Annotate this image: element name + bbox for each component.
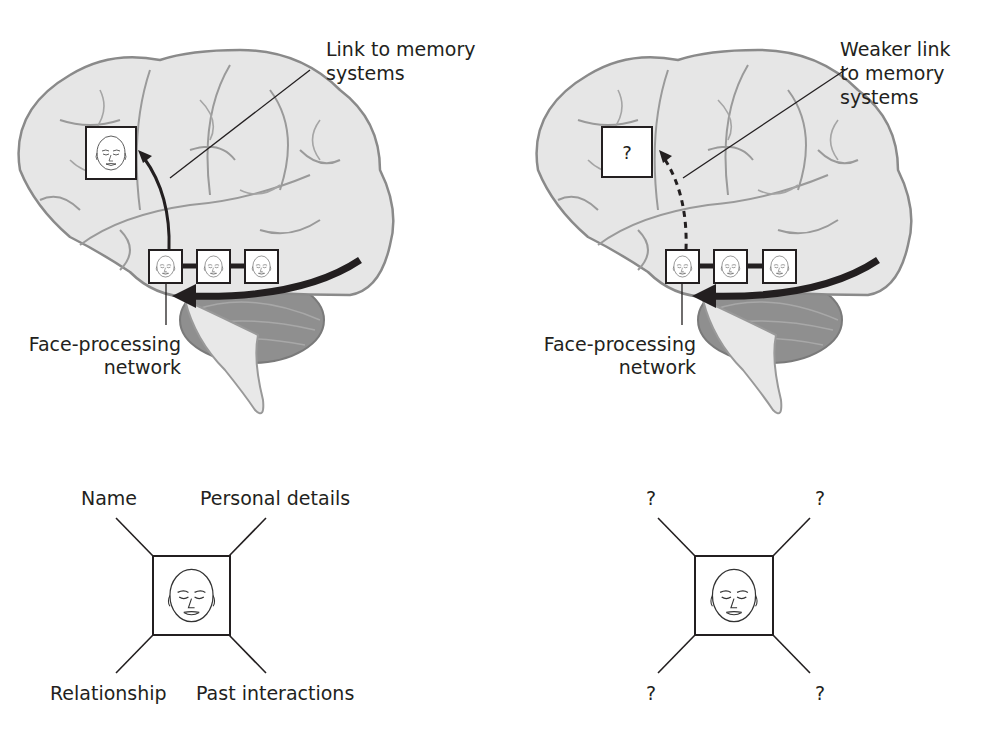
left-network-label-line2: network [25, 356, 181, 379]
left-network-face-2 [196, 249, 231, 284]
right-link-label-line3: systems [840, 86, 919, 109]
face-icon [715, 251, 746, 282]
left-network-face-1 [148, 249, 183, 284]
right-map-unknown-bottom-left: ? [646, 682, 656, 705]
face-icon [87, 128, 135, 178]
right-map-unknown-top-left: ? [646, 487, 656, 510]
right-network-face-1 [665, 249, 700, 284]
left-map-relationship: Relationship [50, 682, 167, 705]
left-face-map-center [152, 555, 231, 636]
right-face-map-center [694, 555, 774, 636]
left-map-name: Name [81, 487, 137, 510]
right-memory-unknown-box: ? [601, 126, 653, 178]
left-link-label-line1: Link to memory [326, 38, 475, 61]
right-map-unknown-bottom-right: ? [815, 682, 825, 705]
face-icon [696, 557, 772, 634]
left-memory-face-box [85, 126, 137, 180]
right-network-label-line1: Face-processing [540, 333, 696, 356]
left-network-label-line1: Face-processing [25, 333, 181, 356]
left-map-past-interactions: Past interactions [196, 682, 354, 705]
question-mark: ? [622, 142, 632, 163]
face-icon [154, 557, 229, 634]
left-link-label-line2: systems [326, 62, 405, 85]
face-icon [198, 251, 229, 282]
right-link-label-line1: Weaker link [840, 38, 950, 61]
left-map-personal-details: Personal details [200, 487, 350, 510]
face-icon [667, 251, 698, 282]
left-network-face-3 [244, 249, 279, 284]
right-network-face-2 [713, 249, 748, 284]
face-icon [150, 251, 181, 282]
right-network-label-line2: network [540, 356, 696, 379]
right-link-label-line2: to memory [840, 62, 945, 85]
face-icon [764, 251, 795, 282]
face-icon [246, 251, 277, 282]
right-network-face-3 [762, 249, 797, 284]
right-map-unknown-top-right: ? [815, 487, 825, 510]
